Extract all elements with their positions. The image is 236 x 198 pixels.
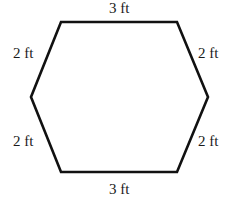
side-label-lower-left: 2 ft xyxy=(13,134,33,149)
hexagon-diagram: 3 ft 3 ft 2 ft 2 ft 2 ft 2 ft xyxy=(0,0,236,198)
side-label-bottom: 3 ft xyxy=(109,182,129,197)
hexagon-outline xyxy=(31,22,208,172)
side-label-top: 3 ft xyxy=(109,1,129,16)
side-label-upper-left: 2 ft xyxy=(13,46,33,61)
side-label-lower-right: 2 ft xyxy=(198,134,218,149)
hexagon-shape xyxy=(0,0,236,198)
side-label-upper-right: 2 ft xyxy=(198,46,218,61)
